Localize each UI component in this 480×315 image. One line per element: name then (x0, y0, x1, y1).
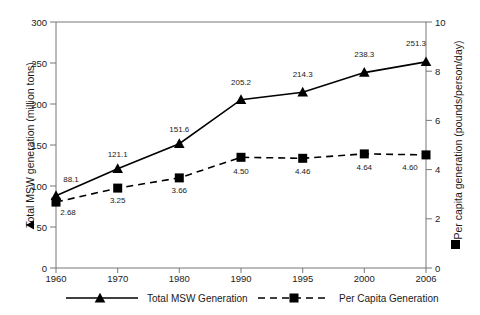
per-capita-data-label: 3.25 (110, 196, 126, 205)
total-msw-data-label: 238.3 (354, 50, 375, 59)
x-tick-label-1960: 1960 (45, 273, 66, 284)
total-msw-data-label: 151.6 (169, 125, 190, 134)
legend-item-total-msw-generation[interactable]: Total MSW Generation (66, 293, 248, 304)
left-tick-label-300: 300 (31, 17, 47, 28)
chart-figure: 300 250 200 150 100 50 0 10 8 6 4 2 0 (0, 0, 480, 315)
total-msw-marker (51, 190, 62, 200)
right-tick-label-0: 0 (435, 263, 440, 274)
series-per-capita-generation: 2.68 3.25 3.66 4.50 4.46 4.64 4.60 (52, 149, 431, 217)
total-msw-data-label: 251.3 (406, 39, 427, 48)
per-capita-marker (175, 173, 184, 182)
left-axis-title-group: Total MSW generation (million tons) (24, 62, 36, 229)
per-capita-marker (113, 184, 122, 193)
left-tick-label-50: 50 (36, 222, 47, 233)
total-msw-marker (421, 56, 432, 66)
per-capita-data-label: 4.60 (402, 163, 418, 172)
right-tick-label-6: 6 (435, 115, 440, 126)
right-tick-label-8: 8 (435, 66, 440, 77)
legend-item-per-capita-generation[interactable]: Per Capita Generation (258, 293, 439, 304)
square-marker-icon (451, 240, 460, 249)
chart-svg: 300 250 200 150 100 50 0 10 8 6 4 2 0 (0, 0, 480, 315)
total-msw-data-label: 88.1 (63, 175, 79, 184)
left-tick-label-0: 0 (42, 263, 47, 274)
per-capita-marker (237, 153, 246, 162)
x-tick-label-1970: 1970 (107, 273, 128, 284)
total-msw-data-label: 121.1 (108, 150, 129, 159)
per-capita-marker (298, 154, 307, 163)
per-capita-data-label: 3.66 (172, 186, 188, 195)
total-msw-marker (174, 138, 185, 148)
per-capita-data-label: 4.64 (357, 163, 373, 172)
per-capita-data-label: 2.68 (60, 208, 76, 217)
legend-label-total-msw-generation: Total MSW Generation (147, 293, 248, 304)
total-msw-data-label: 205.2 (231, 78, 252, 87)
right-axis-title: Per capita generation (pounds/person/day… (452, 40, 464, 239)
per-capita-marker (360, 149, 369, 158)
x-tick-label-2000: 2000 (354, 273, 375, 284)
right-tick-label-10: 10 (435, 17, 446, 28)
right-tick-label-4: 4 (435, 164, 440, 175)
chart-legend: Total MSW Generation Per Capita Generati… (66, 293, 439, 304)
right-tick-label-2: 2 (435, 213, 440, 224)
x-tick-label-1980: 1980 (169, 273, 190, 284)
total-msw-data-label: 214.3 (293, 70, 314, 79)
x-tick-label-2006: 2006 (415, 273, 436, 284)
x-tick-label-1995: 1995 (292, 273, 313, 284)
x-axis-ticks: 1960 1970 1980 1990 1995 2000 2006 (45, 268, 436, 284)
right-axis-title-group: Per capita generation (pounds/person/day… (451, 40, 464, 249)
per-capita-marker (422, 150, 431, 159)
per-capita-data-label: 4.46 (295, 167, 311, 176)
left-axis-title: Total MSW generation (million tons) (24, 62, 36, 228)
legend-square-icon (290, 294, 299, 303)
per-capita-data-label: 4.50 (233, 167, 249, 176)
right-axis-ticks: 10 8 6 4 2 0 (426, 17, 446, 274)
x-tick-label-1990: 1990 (230, 273, 251, 284)
legend-label-per-capita-generation: Per Capita Generation (339, 293, 439, 304)
